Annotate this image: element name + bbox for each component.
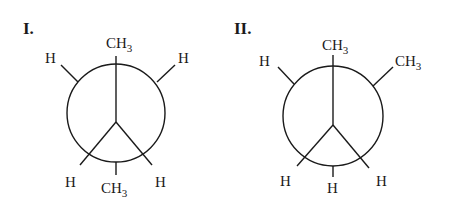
back-bottom-substituent: H: [327, 180, 338, 196]
projection-1-label: I.: [23, 19, 34, 38]
front-lower-left-substituent: H: [65, 174, 76, 190]
projection-1: I. CH3 H H H H CH3: [23, 19, 189, 199]
back-upper-left-substituent: H: [259, 53, 270, 69]
projection-2-label: II.: [234, 19, 251, 38]
back-bond-upper-right: [157, 65, 175, 82]
back-bond-upper-left: [61, 65, 78, 82]
front-lower-right-substituent: H: [376, 173, 387, 189]
front-top-substituent: CH3: [322, 37, 349, 56]
back-upper-left-substituent: H: [45, 50, 56, 66]
front-bond-lower-right: [333, 125, 369, 168]
front-lower-right-substituent: H: [155, 174, 166, 190]
front-lower-left-substituent: H: [280, 173, 291, 189]
back-upper-right-substituent: CH3: [395, 53, 422, 72]
projection-2: II. CH3 H CH3 H H H: [234, 19, 422, 196]
back-bond-upper-left: [278, 67, 294, 84]
back-bond-upper-right: [373, 67, 393, 86]
back-bottom-substituent: CH3: [101, 180, 128, 199]
back-upper-right-substituent: H: [178, 50, 189, 66]
front-bond-lower-left: [297, 125, 333, 166]
front-top-substituent: CH3: [106, 35, 133, 54]
newman-projections-figure: I. CH3 H H H H CH3 II. CH3 H CH3 H: [0, 0, 454, 213]
